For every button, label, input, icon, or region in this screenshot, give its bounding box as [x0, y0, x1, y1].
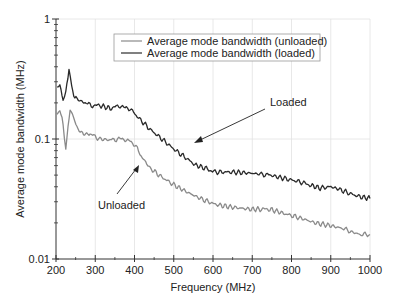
x-tick-label: 700: [243, 264, 261, 276]
x-tick-label: 900: [322, 264, 340, 276]
y-tick-label: 0.01: [29, 253, 50, 265]
x-tick-label: 400: [125, 264, 143, 276]
x-tick-label: 500: [165, 264, 183, 276]
arrowhead-loaded-icon: [194, 136, 203, 143]
series-line-loaded: [57, 69, 370, 200]
arrow-unloaded: [117, 169, 136, 194]
x-tick-label: 200: [47, 264, 65, 276]
y-tick-label: 1: [44, 13, 50, 25]
line-chart: 20030040050060070080090010000.010.11 Fre…: [0, 0, 395, 308]
arrow-loaded: [198, 109, 265, 141]
y-tick-label: 0.1: [35, 133, 50, 145]
x-tick-label: 1000: [358, 264, 382, 276]
y-axis-label: Average mode bandwidth (MHz): [14, 60, 26, 218]
annotation-loaded: Loaded: [194, 96, 307, 143]
x-axis-label: Frequency (MHz): [171, 281, 256, 293]
x-tick-label: 300: [86, 264, 104, 276]
legend-label-unloaded: Average mode bandwidth (unloaded): [147, 35, 327, 47]
series-line-unloaded: [57, 110, 370, 236]
legend-label-loaded: Average mode bandwidth (loaded): [147, 47, 315, 59]
legend: Average mode bandwidth (unloaded) Averag…: [114, 34, 327, 61]
data-series: [57, 69, 370, 236]
annotation-unloaded: Unloaded: [98, 165, 145, 211]
annotation-loaded-label: Loaded: [270, 96, 307, 108]
annotation-unloaded-label: Unloaded: [98, 199, 145, 211]
x-tick-label: 600: [204, 264, 222, 276]
x-tick-label: 800: [282, 264, 300, 276]
